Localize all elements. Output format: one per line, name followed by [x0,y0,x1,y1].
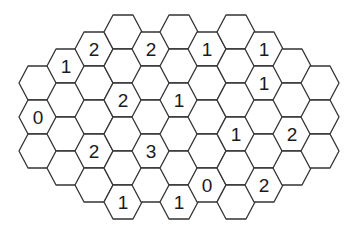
hex-clue-number: 2 [89,39,100,60]
hex-cell[interactable] [301,100,339,134]
hex-cell[interactable] [301,134,339,168]
hex-clue-number: 1 [259,39,270,60]
hex-clue-number: 2 [89,141,100,162]
hex-clue-number: 0 [202,175,213,196]
hex-puzzle-board: 01222123111011122 [0,0,357,231]
hex-shape [301,66,339,100]
hex-clue-number: 2 [146,39,157,60]
hex-shape [301,134,339,168]
hex-clue-number: 1 [259,73,270,94]
hex-clue-number: 2 [287,124,298,145]
hex-clue-number: 1 [61,56,72,77]
hex-clue-number: 2 [118,90,129,111]
hex-clue-number: 2 [259,175,270,196]
hex-cell[interactable] [301,66,339,100]
hex-clue-number: 1 [202,39,213,60]
hex-shape [301,100,339,134]
hex-clue-number: 1 [174,192,185,213]
hex-clue-number: 3 [146,141,157,162]
hex-clue-number: 1 [118,192,129,213]
hex-clue-number: 1 [231,124,242,145]
hex-clue-number: 1 [174,90,185,111]
hex-grid: 01222123111011122 [0,0,357,231]
hex-clue-number: 0 [33,107,44,128]
